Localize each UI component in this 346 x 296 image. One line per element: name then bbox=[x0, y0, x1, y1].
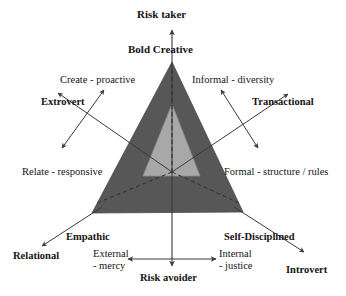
label-relational: Relational bbox=[13, 250, 59, 262]
label-introvert: Introvert bbox=[286, 264, 327, 276]
label-risk-avoider: Risk avoider bbox=[140, 272, 197, 284]
label-bold-creative: Bold Creative bbox=[128, 43, 193, 55]
label-extrovert: Extrovert bbox=[41, 96, 85, 108]
label-formal-structure-rules: Formal - structure / rules bbox=[224, 166, 328, 178]
label-self-disciplined: Self-Disciplined bbox=[224, 231, 295, 243]
label-external-mercy: External - mercy bbox=[93, 248, 131, 272]
label-relate-responsive: Relate - responsive bbox=[22, 166, 102, 178]
introvert-axis-line bbox=[234, 207, 304, 252]
label-empathic: Empathic bbox=[66, 231, 110, 243]
label-risk-taker: Risk taker bbox=[137, 8, 186, 20]
label-internal-justice: Internal - justice bbox=[219, 248, 257, 272]
label-transactional: Transactional bbox=[252, 96, 314, 108]
diagram-canvas: Risk taker Bold Creative Create - proact… bbox=[0, 0, 346, 296]
label-create-proactive: Create - proactive bbox=[60, 74, 135, 86]
label-informal-diversity: Informal - diversity bbox=[192, 74, 274, 86]
